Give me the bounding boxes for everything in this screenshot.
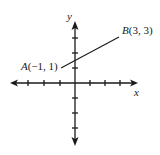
- coordinate-plane: y x A(−1, 1) B(3, 3): [0, 0, 160, 155]
- point-a-label: A(−1, 1): [20, 60, 58, 73]
- x-axis: [10, 80, 138, 87]
- point-b-label: B(3, 3): [122, 24, 153, 37]
- x-axis-label: x: [133, 86, 139, 98]
- segment-ab: [61, 37, 119, 68]
- y-axis-label: y: [66, 10, 72, 22]
